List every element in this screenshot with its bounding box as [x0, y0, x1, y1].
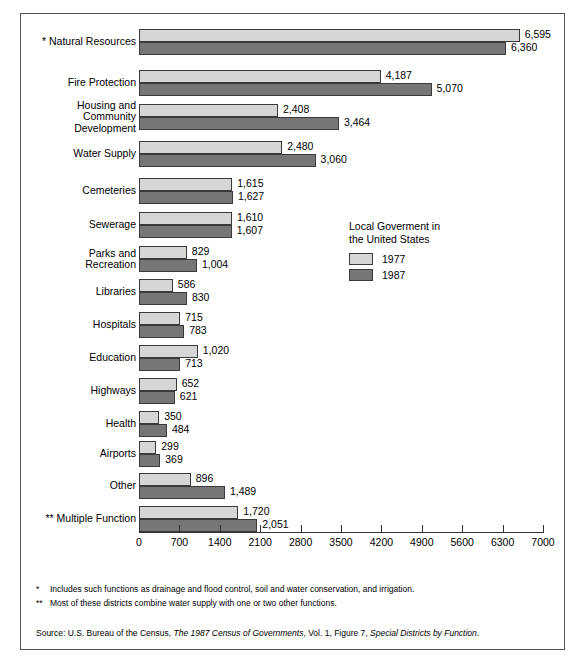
chart-row: Education1,020713 [21, 345, 566, 371]
footnotes: *Includes such functions as drainage and… [36, 582, 551, 610]
chart-row: Housing and Community Development2,4083,… [21, 104, 566, 130]
bar-1977 [139, 70, 381, 83]
bar-group: 1,020713 [139, 345, 543, 371]
bar-1987 [139, 117, 339, 130]
bar-value-label: 5,070 [437, 82, 463, 95]
legend-swatch-1987 [349, 269, 373, 281]
bar-value-label: 369 [165, 453, 183, 466]
category-label: Cemeteries [21, 185, 136, 197]
bar-1987 [139, 391, 175, 404]
x-axis-tick [220, 525, 221, 533]
category-label: Other [21, 480, 136, 492]
x-axis-tick [301, 525, 302, 533]
bar-value-label: 3,464 [344, 116, 370, 129]
bar-1987 [139, 325, 184, 338]
x-axis-tick [381, 525, 382, 533]
chart-row: Fire Protection4,1875,070 [21, 70, 566, 96]
bar-1987 [139, 83, 432, 96]
x-axis: 0700140021002800350042004900560063007000 [139, 522, 549, 556]
category-label: Health [21, 418, 136, 430]
x-axis-tick-label: 5600 [442, 536, 482, 548]
bar-1977 [139, 506, 238, 519]
bar-value-label: 652 [182, 377, 200, 390]
chart-row: Cemeteries1,6151,627 [21, 178, 566, 204]
bar-group: 6,5956,360 [139, 29, 543, 55]
category-label: Highways [21, 385, 136, 397]
source-publication-title: The 1987 Census of Governments [174, 628, 304, 638]
bar-value-label: 621 [180, 390, 198, 403]
footnote-double-asterisk: **Most of these districts combine water … [36, 596, 551, 610]
footnote-single-asterisk: *Includes such functions as drainage and… [36, 582, 551, 596]
bar-1987 [139, 454, 160, 467]
bar-group: 8961,489 [139, 473, 543, 499]
x-axis-tick-label: 2800 [281, 536, 321, 548]
chart-row: Other8961,489 [21, 473, 566, 499]
footnote-marker: * [36, 582, 50, 596]
category-label: Education [21, 352, 136, 364]
category-label: Sewerage [21, 219, 136, 231]
bar-value-label: 1,607 [237, 224, 263, 237]
bar-value-label: 299 [161, 440, 179, 453]
bar-1987 [139, 225, 232, 238]
bar-value-label: 6,360 [511, 41, 537, 54]
x-axis-tick-label: 4900 [402, 536, 442, 548]
footnote-marker: ** [36, 596, 50, 610]
bar-value-label: 1,489 [230, 485, 256, 498]
source-figure-title: Special Districts by Function [370, 628, 477, 638]
bar-1987 [139, 154, 316, 167]
category-label: Libraries [21, 286, 136, 298]
bar-1977 [139, 473, 191, 486]
bar-1977 [139, 178, 232, 191]
category-label: ** Multiple Function [21, 513, 136, 525]
bar-1987 [139, 358, 180, 371]
bar-value-label: 715 [185, 311, 203, 324]
bar-value-label: 713 [185, 357, 203, 370]
bar-1977 [139, 411, 159, 424]
legend-label-1987: 1987 [382, 269, 405, 281]
source-middle: , Vol. 1, Figure 7, [303, 628, 370, 638]
bar-group: 350484 [139, 411, 543, 437]
x-axis-tick [503, 525, 504, 533]
bar-value-label: 1,004 [202, 258, 228, 271]
x-axis-tick-label: 2100 [240, 536, 280, 548]
x-axis-tick-label: 6300 [483, 536, 523, 548]
x-axis-tick [179, 525, 180, 533]
chart-row: Health350484 [21, 411, 566, 437]
legend-title: Local Goverment in the United States [349, 220, 519, 246]
bar-value-label: 1,720 [243, 505, 269, 518]
bar-value-label: 3,060 [321, 153, 347, 166]
bar-1977 [139, 212, 232, 225]
category-label: Airports [21, 448, 136, 460]
x-axis-tick [341, 525, 342, 533]
bar-1977 [139, 441, 156, 454]
category-label: Fire Protection [21, 77, 136, 89]
bar-1977 [139, 104, 278, 117]
bar-value-label: 896 [196, 472, 214, 485]
category-label: Housing and Community Development [21, 100, 136, 135]
bar-1977 [139, 246, 187, 259]
source-suffix: . [477, 628, 479, 638]
legend-swatch-1977 [349, 253, 373, 265]
x-axis-tick-label: 7000 [523, 536, 563, 548]
bar-group: 652621 [139, 378, 543, 404]
chart-row: Highways652621 [21, 378, 566, 404]
bar-1977 [139, 29, 520, 42]
bar-1977 [139, 141, 282, 154]
bar-group: 4,1875,070 [139, 70, 543, 96]
chart-row: Water Supply2,4803,060 [21, 141, 566, 167]
bar-1987 [139, 424, 167, 437]
category-label: Parks and Recreation [21, 248, 136, 271]
bar-1987 [139, 42, 506, 55]
bar-1977 [139, 378, 177, 391]
bar-value-label: 2,408 [283, 103, 309, 116]
x-axis-tick-label: 1400 [200, 536, 240, 548]
bar-1987 [139, 259, 197, 272]
category-label: * Natural Resources [21, 36, 136, 48]
footnote-text: Most of these districts combine water su… [50, 598, 337, 608]
bar-1987 [139, 191, 233, 204]
category-label: Hospitals [21, 319, 136, 331]
x-axis-tick [422, 525, 423, 533]
chart-legend: Local Goverment in the United States 197… [349, 220, 519, 283]
chart-frame: * Natural Resources6,5956,360Fire Protec… [20, 13, 565, 650]
bar-1977 [139, 279, 173, 292]
